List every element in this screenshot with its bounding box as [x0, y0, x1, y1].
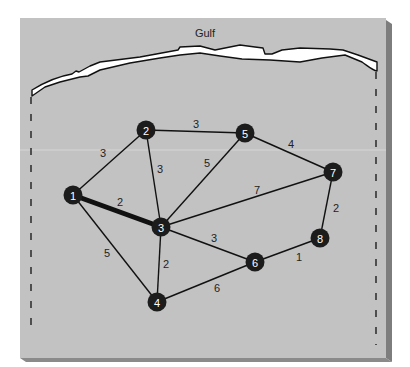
panel-bottom-edge	[20, 358, 392, 362]
edge-weight-3-4: 2	[163, 258, 169, 270]
node-label: 1	[70, 190, 76, 202]
node-label: 6	[252, 257, 258, 269]
edge-weight-2-5: 3	[193, 118, 199, 130]
edge-weight-5-7: 4	[288, 138, 294, 150]
node-1: 1	[64, 186, 83, 205]
node-label: 5	[242, 128, 248, 140]
node-label: 3	[158, 222, 164, 234]
node-4: 4	[148, 293, 167, 312]
edge-weight-3-6: 3	[211, 232, 217, 244]
node-8: 8	[311, 229, 330, 248]
edge-weight-3-7: 7	[254, 184, 260, 196]
edge-weight-1-3: 2	[117, 196, 123, 208]
panel-right-edge	[386, 20, 392, 362]
edge-weight-4-6: 6	[214, 282, 220, 294]
edge-weight-7-8: 2	[333, 202, 339, 214]
edge-weight-6-8: 1	[296, 251, 302, 263]
gulf-title: Gulf	[195, 27, 216, 39]
node-6: 6	[246, 253, 265, 272]
edge-weight-3-5: 5	[204, 157, 210, 169]
edge-weight-1-2: 3	[100, 147, 106, 159]
edge-weight-1-4: 5	[104, 247, 110, 259]
node-7: 7	[324, 163, 343, 182]
node-label: 2	[143, 125, 149, 137]
node-label: 4	[154, 297, 160, 309]
node-label: 8	[317, 233, 323, 245]
node-2: 2	[137, 121, 156, 140]
node-3: 3	[152, 218, 171, 237]
edge-weight-2-3: 3	[157, 163, 163, 175]
network-diagram: Gulf 3253357326421 12345678	[0, 0, 410, 367]
node-5: 5	[236, 124, 255, 143]
node-label: 7	[330, 167, 336, 179]
